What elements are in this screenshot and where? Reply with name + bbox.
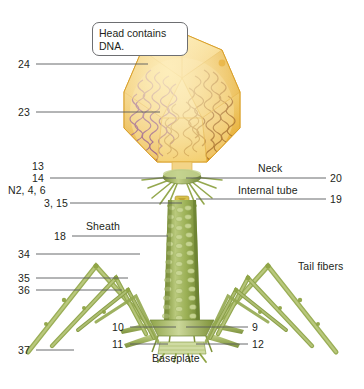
label-baseplate: Baseplate [152,352,200,364]
label-r20: 20 [330,172,342,184]
label-l315: 3, 15 [44,197,68,209]
label-r19: 19 [330,193,342,205]
label-l10: 10 [112,321,124,333]
label-l11: 11 [112,338,123,350]
label-l35: 35 [18,272,30,284]
label-tailfib: Tail fibers [298,260,343,272]
phage-diagram: Head contains DNA. 24231314N2, 4, 63, 15… [0,0,364,389]
callout-head-dna: Head contains DNA. [92,22,188,56]
label-r9: 9 [252,321,258,333]
label-sheath: Sheath [86,220,120,232]
label-l14: 14 [32,172,44,184]
phage-illustration [0,0,364,389]
label-l13: 13 [32,160,44,172]
label-intube: Internal tube [238,184,298,196]
label-l37: 37 [18,344,30,356]
label-l24: 24 [18,58,30,70]
label-l36: 36 [18,284,30,296]
label-l23: 23 [18,106,30,118]
label-r12: 12 [252,338,264,350]
figure-bottom-caption [0,378,364,389]
phage-sheath [162,200,200,322]
label-lN2: N2, 4, 6 [8,184,46,196]
label-l18: 18 [54,230,66,242]
label-neck: Neck [258,162,282,174]
label-l34: 34 [18,248,30,260]
callout-text: Head contains DNA. [99,27,166,52]
